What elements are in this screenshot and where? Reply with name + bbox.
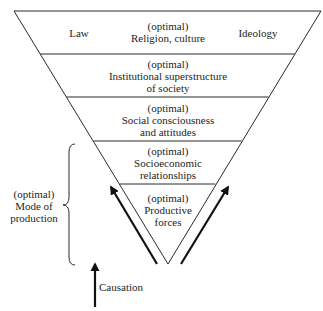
mode-of-production-brace (63, 144, 75, 265)
layer-4-line-2: Socioeconomic (134, 157, 202, 169)
pyramid-diagram: Law (optimal) Religion, culture Ideology… (0, 0, 323, 311)
layer-2-line-2: Institutional superstructure (109, 70, 227, 82)
causation-legend-label: Causation (99, 281, 143, 293)
layer-social-consciousness: (optimal) Social consciousness and attit… (122, 102, 215, 138)
layer-1-line-2: Religion, culture (131, 32, 205, 44)
brace-label-line-3: production (10, 212, 58, 224)
layer-5-line-3: forces (155, 216, 182, 228)
layer-socioeconomic-relationships: (optimal) Socioeconomic relationships (134, 145, 202, 181)
layer-religion-culture: Law (optimal) Religion, culture Ideology (69, 20, 278, 44)
layer-3-line-3: and attitudes (140, 126, 196, 138)
mode-of-production-label: (optimal) Mode of production (10, 188, 58, 224)
layer-institutional-superstructure: (optimal) Institutional superstructure o… (109, 58, 227, 94)
layer-5-line-2: Productive (144, 204, 192, 216)
side-label-ideology: Ideology (238, 27, 278, 39)
layer-2-line-3: of society (146, 82, 190, 94)
layer-3-line-2: Social consciousness (122, 114, 215, 126)
layer-4-line-3: relationships (140, 169, 196, 181)
brace-label-line-2: Mode of (15, 200, 53, 212)
layer-productive-forces: (optimal) Productive forces (144, 192, 192, 228)
side-label-law: Law (69, 27, 89, 39)
